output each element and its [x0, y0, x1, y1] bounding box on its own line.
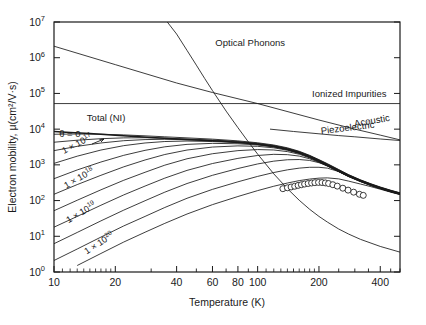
mobility-chart-svg: 1020406080100200400100101102103104105106… — [0, 0, 426, 325]
data-point-marker — [334, 183, 340, 189]
x-tick-label: 80 — [232, 276, 244, 288]
annotation-total-ni: Total (NI) — [87, 112, 126, 123]
y-axis-title: Electron mobility, μ(cm²/V·s) — [6, 81, 18, 212]
x-tick-label: 60 — [207, 276, 219, 288]
data-point-marker — [360, 192, 366, 198]
data-point-marker — [351, 189, 357, 195]
x-tick-label: 10 — [48, 276, 60, 288]
electron-mobility-figure: 1020406080100200400100101102103104105106… — [0, 0, 426, 325]
x-tick-label: 400 — [371, 276, 389, 288]
x-tick-label: 200 — [310, 276, 328, 288]
annotation-optical-phonons: Optical Phonons — [215, 37, 285, 48]
x-tick-label: 20 — [109, 276, 121, 288]
x-tick-label: 100 — [249, 276, 267, 288]
x-tick-label: 40 — [171, 276, 183, 288]
data-point-marker — [345, 187, 351, 193]
x-axis-title: Temperature (K) — [189, 296, 265, 308]
annotation-ionized-impurities: Ionized Impurities — [312, 88, 387, 99]
